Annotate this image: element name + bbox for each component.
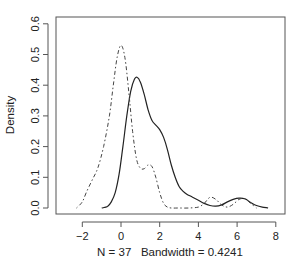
density-dashed-curve bbox=[77, 45, 257, 208]
x-tick-label: 6 bbox=[234, 230, 240, 242]
y-tick-label: 0.4 bbox=[29, 78, 41, 93]
density-solid-curve bbox=[102, 77, 268, 208]
x-axis: −202468 bbox=[76, 222, 279, 242]
x-axis-label: N = 37 Bandwidth = 0.4241 bbox=[97, 246, 243, 258]
y-tick-label: 0.5 bbox=[29, 47, 41, 62]
x-tick-label: 2 bbox=[157, 230, 163, 242]
x-tick-label: 4 bbox=[195, 230, 201, 242]
x-tick-label: −2 bbox=[76, 230, 89, 242]
y-tick-label: 0.2 bbox=[29, 139, 41, 154]
y-tick-label: 0.0 bbox=[29, 200, 41, 215]
y-tick-label: 0.6 bbox=[29, 16, 41, 31]
x-tick-label: 8 bbox=[273, 230, 279, 242]
y-tick-label: 0.3 bbox=[29, 108, 41, 123]
x-tick-label: 0 bbox=[118, 230, 124, 242]
y-axis: 0.00.10.20.30.40.50.6 bbox=[29, 16, 48, 215]
y-axis-label: Density bbox=[4, 96, 16, 135]
y-tick-label: 0.1 bbox=[29, 170, 41, 185]
series-group bbox=[77, 45, 269, 208]
density-plot: −202468 0.00.10.20.30.40.50.6 N = 37 Ban… bbox=[0, 0, 297, 273]
